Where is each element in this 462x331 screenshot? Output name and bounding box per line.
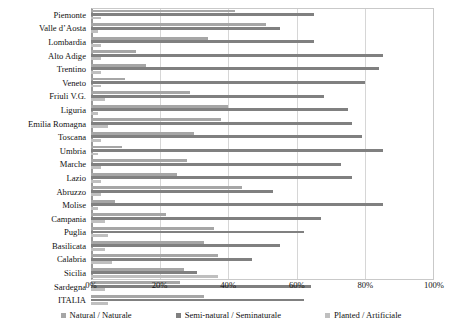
bar-1	[91, 54, 383, 57]
legend-item[interactable]: Planted / Artificiale	[325, 310, 401, 320]
bar-1	[91, 122, 352, 125]
x-tick-label: 80%	[358, 281, 374, 290]
bar-1	[91, 149, 383, 152]
chart-row: Abruzzo	[91, 185, 434, 199]
bar-1	[91, 27, 280, 30]
bar-2	[91, 261, 112, 264]
bar-0	[91, 146, 122, 149]
bar-0	[91, 159, 187, 162]
bar-0	[91, 118, 221, 121]
category-label: Molise	[62, 201, 86, 210]
bar-group	[91, 213, 434, 224]
bar-2	[91, 166, 101, 169]
bar-2	[91, 17, 101, 20]
chart-row: Trentino	[91, 62, 434, 76]
category-label: Umbria	[60, 146, 86, 155]
bar-0	[91, 105, 228, 108]
bar-2	[91, 44, 101, 47]
bar-1	[91, 217, 321, 220]
bar-group	[91, 105, 434, 116]
bar-group	[91, 200, 434, 211]
bar-0	[91, 64, 146, 67]
bar-1	[91, 190, 273, 193]
bar-0	[91, 268, 184, 271]
x-tick-label: 40%	[220, 281, 236, 290]
bar-group	[91, 240, 434, 251]
bar-2	[91, 71, 101, 74]
bar-group	[91, 145, 434, 156]
bar-group	[91, 64, 434, 75]
bar-1	[91, 40, 314, 43]
bar-2	[91, 139, 101, 142]
bar-1	[91, 108, 348, 111]
legend-item[interactable]: Semi-natural / Seminaturale	[176, 310, 281, 320]
bar-2	[91, 302, 108, 305]
bar-1	[91, 176, 352, 179]
bar-group	[91, 227, 434, 238]
bar-2	[91, 275, 218, 278]
bar-2	[91, 193, 101, 196]
bar-group	[91, 91, 434, 102]
bar-group	[91, 173, 434, 184]
bar-2	[91, 207, 98, 210]
bar-2	[91, 57, 101, 60]
category-label: Piemonte	[54, 11, 86, 20]
bar-1	[91, 67, 379, 70]
category-label: Liguria	[61, 106, 86, 115]
bar-group	[91, 186, 434, 197]
bar-1	[91, 95, 324, 98]
chart-row: Puglia	[91, 226, 434, 240]
category-label: Campania	[51, 214, 86, 223]
x-tick-label: 20%	[152, 281, 168, 290]
legend-swatch-icon	[176, 313, 181, 318]
category-label: Veneto	[62, 78, 86, 87]
chart-row: Alto Adige	[91, 49, 434, 63]
bar-group	[91, 50, 434, 61]
chart-row: Piemonte	[91, 8, 434, 22]
legend-swatch-icon	[325, 313, 330, 318]
category-label: Basilicata	[52, 242, 86, 251]
legend-label: Semi-natural / Seminaturale	[185, 310, 281, 320]
category-label: Sardegna	[54, 282, 86, 291]
category-label: Valle d’Aosta	[39, 24, 86, 33]
legend-item[interactable]: Natural / Naturale	[61, 310, 132, 320]
bar-1	[91, 258, 252, 261]
bar-1	[91, 81, 365, 84]
chart-row: Friuli V.G.	[91, 90, 434, 104]
x-tick-label: 0%	[85, 281, 96, 290]
legend-label: Planted / Artificiale	[334, 310, 401, 320]
bar-2	[91, 248, 105, 251]
x-axis: 0%20%40%60%80%100%	[91, 281, 434, 297]
bar-group	[91, 118, 434, 129]
bar-0	[91, 200, 115, 203]
bar-0	[91, 37, 208, 40]
chart-row: Campania	[91, 212, 434, 226]
bar-group	[91, 77, 434, 88]
bar-2	[91, 85, 101, 88]
bar-0	[91, 23, 266, 26]
x-tick-label: 100%	[424, 281, 444, 290]
category-label: Friuli V.G.	[49, 92, 86, 101]
bar-1	[91, 299, 304, 302]
chart-rows: PiemonteValle d’AostaLombardiaAlto Adige…	[91, 8, 434, 280]
category-label: Abruzzo	[56, 187, 86, 196]
chart-row: Molise	[91, 198, 434, 212]
bar-2	[91, 125, 108, 128]
category-label: Sicilia	[64, 269, 86, 278]
bar-1	[91, 13, 314, 16]
bar-0	[91, 78, 125, 81]
bar-2	[91, 153, 98, 156]
bar-1	[91, 231, 304, 234]
category-label: Toscana	[58, 133, 86, 142]
bar-group	[91, 9, 434, 20]
bar-1	[91, 244, 280, 247]
category-label: ITALIA	[58, 296, 86, 305]
bar-group	[91, 268, 434, 279]
bar-group	[91, 254, 434, 265]
bar-0	[91, 213, 166, 216]
bar-1	[91, 203, 383, 206]
category-label: Trentino	[57, 65, 86, 74]
bar-2	[91, 180, 101, 183]
bar-1	[91, 271, 197, 274]
bar-2	[91, 30, 98, 33]
